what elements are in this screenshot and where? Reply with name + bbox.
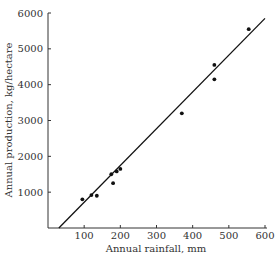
x-tick-label: 300 — [147, 230, 166, 241]
data-point — [212, 77, 216, 81]
x-tick-label: 500 — [219, 230, 238, 241]
data-point — [109, 172, 113, 176]
y-tick-label: 6000 — [18, 8, 43, 19]
x-axis-label: Annual rainfall, mm — [105, 243, 207, 254]
data-point — [180, 111, 184, 115]
data-point — [80, 197, 84, 201]
x-axis-ticks: 100200300400500600 — [75, 225, 275, 241]
y-tick-label: 3000 — [18, 115, 43, 126]
x-tick-label: 400 — [183, 230, 202, 241]
y-tick-label: 1000 — [18, 187, 43, 198]
y-axis-ticks: 100020003000400050006000 — [18, 8, 51, 198]
data-point — [95, 194, 99, 198]
y-tick-label: 5000 — [18, 43, 43, 54]
data-point — [118, 167, 122, 171]
data-point — [90, 193, 94, 197]
x-tick-label: 100 — [75, 230, 94, 241]
y-tick-label: 2000 — [18, 151, 43, 162]
y-axis-label: Annual production, kg/hectare — [3, 42, 14, 198]
regression-line — [59, 18, 265, 228]
x-tick-label: 200 — [111, 230, 130, 241]
data-point — [111, 181, 115, 185]
data-point — [212, 63, 216, 67]
x-tick-label: 600 — [255, 230, 274, 241]
y-tick-label: 4000 — [18, 79, 43, 90]
axes — [48, 13, 267, 228]
data-point — [247, 27, 251, 31]
data-points — [80, 27, 250, 201]
data-point — [115, 169, 119, 173]
scatter-chart: 100020003000400050006000 100200300400500… — [0, 0, 280, 260]
